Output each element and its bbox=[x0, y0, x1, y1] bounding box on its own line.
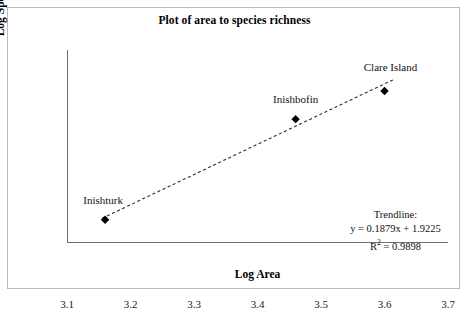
x-tick-label: 3.1 bbox=[60, 298, 74, 310]
data-points-group bbox=[101, 87, 389, 224]
x-tick-label: 3.6 bbox=[378, 298, 392, 310]
plot-area: 2.502.522.542.562.582.602.62 3.13.23.33.… bbox=[67, 50, 448, 243]
trendline-group bbox=[102, 79, 394, 218]
x-tick-label: 3.2 bbox=[124, 298, 138, 310]
data-point-label: Clare Island bbox=[364, 61, 417, 73]
x-tick-label: 3.3 bbox=[187, 298, 201, 310]
chart-title: Plot of area to species richness bbox=[0, 14, 469, 26]
trendline-annotation: Trendline: y = 0.1879x + 1.9225 R2 = 0.9… bbox=[323, 208, 468, 254]
x-tick-label: 3.4 bbox=[251, 298, 265, 310]
x-tick-label: 3.7 bbox=[441, 298, 455, 310]
y-axis-title: Log Species Number bbox=[0, 0, 10, 82]
x-tick-label: 3.5 bbox=[314, 298, 328, 310]
x-axis-title: Log Area bbox=[67, 268, 448, 280]
trendline-r-squared: R2 = 0.9898 bbox=[323, 236, 468, 254]
trendline-heading: Trendline: bbox=[323, 208, 468, 222]
data-point-label: Inishturk bbox=[83, 194, 123, 206]
trendline-equation: y = 0.1879x + 1.9225 bbox=[323, 222, 468, 236]
r-squared-value: = 0.9898 bbox=[381, 241, 421, 252]
data-point-label: Inishbofin bbox=[273, 93, 318, 105]
